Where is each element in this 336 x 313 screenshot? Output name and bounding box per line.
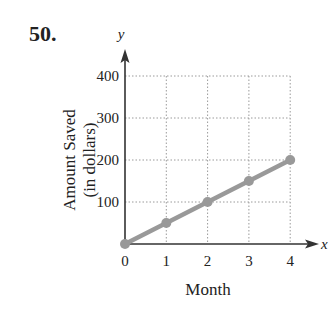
- y-axis-variable: y: [116, 26, 125, 42]
- data-point: [244, 176, 254, 186]
- y-tick-label: 400: [97, 68, 120, 84]
- x-tick-label: 4: [286, 253, 294, 269]
- x-tick-label: 1: [163, 253, 171, 269]
- y-axis-label-line-2: (in dollars): [80, 122, 99, 197]
- x-axis-variable: x: [320, 236, 328, 252]
- data-point: [285, 155, 295, 165]
- x-tick-label: 0: [121, 253, 129, 269]
- y-tick-label: 300: [97, 110, 120, 126]
- x-tick-label: 2: [204, 253, 212, 269]
- y-tick-label: 200: [97, 152, 120, 168]
- axes: [121, 49, 320, 249]
- line-chart: 10020030040001234 x y Month Amount Saved…: [0, 0, 336, 313]
- x-tick-label: 3: [245, 253, 253, 269]
- y-axis-label-line-1: Amount Saved: [60, 109, 79, 211]
- x-axis-label: Month: [185, 280, 231, 299]
- data-point: [203, 197, 213, 207]
- y-axis-label: Amount Saved (in dollars): [60, 109, 99, 211]
- y-tick-label: 100: [97, 194, 120, 210]
- data-point: [120, 239, 130, 249]
- tick-labels: 10020030040001234: [97, 68, 295, 269]
- gridlines: [125, 76, 290, 244]
- data-point: [161, 218, 171, 228]
